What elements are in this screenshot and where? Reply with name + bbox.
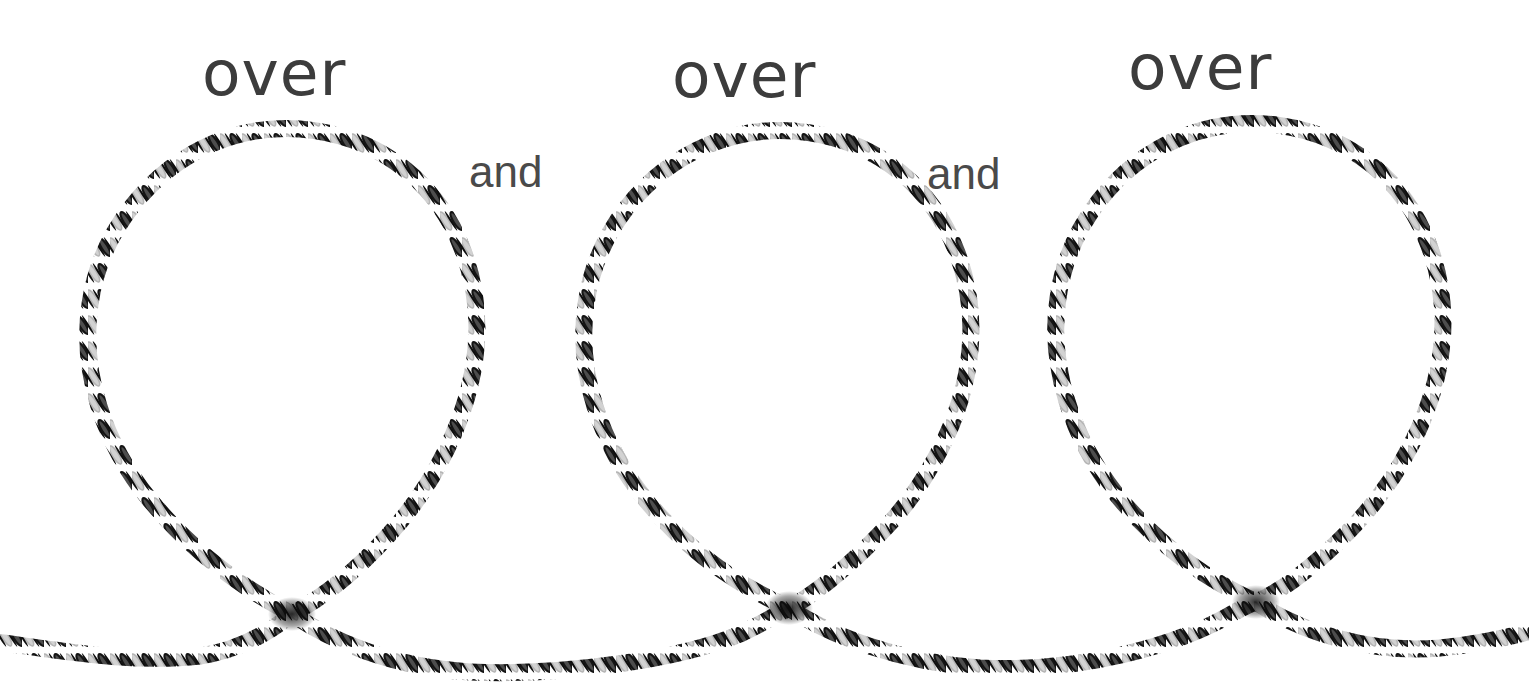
label-over-1: over <box>202 42 347 105</box>
label-and-2: and <box>927 152 1000 196</box>
label-and-1: and <box>469 150 542 194</box>
label-over-3: over <box>1128 36 1273 99</box>
illustration-canvas: over over over and and <box>0 0 1529 694</box>
label-over-2: over <box>672 44 817 107</box>
